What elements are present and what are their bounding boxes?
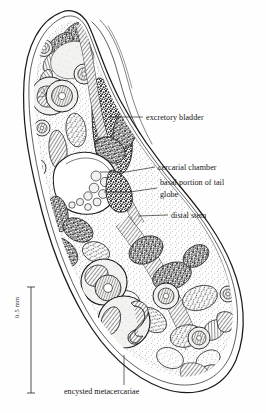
metacercaria-cyst [188,327,210,349]
metacercaria-cyst-labelled [98,296,150,348]
label-basal-portion-of-tail: basal portion of tail [160,178,224,188]
metacercaria-cyst [36,40,53,57]
scale-bar-label: 0.5 mm [13,278,20,318]
metacercaria-cyst [220,286,236,302]
metacercaria-cyst [34,120,50,136]
label-globe: globe [160,190,178,200]
label-distal-stem: distal stem [171,211,206,221]
label-excretory-bladder: excretory bladder [146,113,204,123]
caption-encysted-metacercariae: encysted metacercariae [64,387,139,396]
label-cercarial-chamber: cercarial chamber [158,163,217,173]
figure-plate: excretory bladder cercarial chamber basa… [0,0,266,413]
scale-bar [27,287,35,393]
specimen-illustration [0,0,266,413]
metacercaria-cyst [46,80,78,112]
metacercaria-cyst [153,283,179,309]
